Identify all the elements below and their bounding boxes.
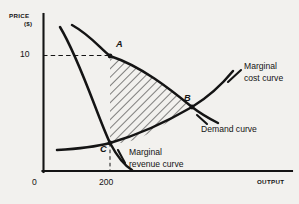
demand-curve-label: Demand curve bbox=[201, 125, 257, 135]
figure-canvas: PRICE ($) 10 0 200 OUTPUT A B C Marginal… bbox=[0, 0, 299, 204]
shaded-region-deadweight-loss bbox=[110, 56, 192, 143]
point-label-c: C bbox=[100, 144, 107, 154]
marginal-revenue-curve-label-line1: Marginal bbox=[129, 148, 162, 158]
y-axis-title-line1: PRICE bbox=[9, 13, 29, 20]
point-b-marker bbox=[190, 105, 195, 110]
marginal-cost-curve-label-line1: Marginal bbox=[244, 62, 277, 72]
y-axis-title-line2: ($) bbox=[24, 21, 32, 28]
point-c-marker bbox=[108, 141, 113, 146]
x-origin-label: 0 bbox=[32, 178, 37, 188]
diagram-svg bbox=[0, 0, 299, 204]
x-axis-title: OUTPUT bbox=[257, 179, 284, 186]
y-tick-label-10: 10 bbox=[20, 50, 30, 60]
point-a-marker bbox=[108, 54, 113, 59]
marginal-revenue-curve-label-line2: revenue curve bbox=[129, 160, 183, 170]
point-label-a: A bbox=[116, 39, 123, 49]
point-label-b: B bbox=[184, 93, 191, 103]
marginal-cost-curve-label-line2: cost curve bbox=[244, 74, 283, 84]
x-tick-label-200: 200 bbox=[99, 178, 113, 188]
